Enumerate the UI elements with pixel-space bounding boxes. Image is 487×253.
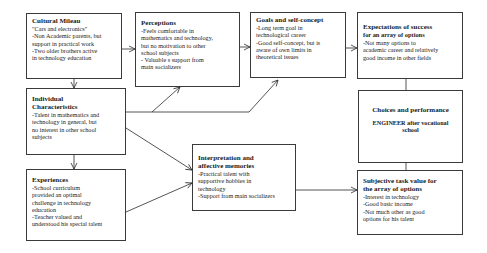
- box-text: "Cars and electronics": [32, 25, 116, 32]
- box-text: -Teacher valued and: [32, 213, 120, 220]
- box-subjective-task-value: Subjective task value for the array of o…: [357, 170, 463, 235]
- box-interpretation-affective-memories: Interpretation and affective memories -P…: [192, 144, 296, 211]
- arrow-experiences-to-interpretation: [126, 183, 192, 212]
- box-expectations-of-success: Expectations of success for an array of …: [357, 12, 463, 79]
- box-text: but no motivation to other: [141, 42, 234, 49]
- box-choices-and-performance: Choices and performance ENGINEER after v…: [358, 90, 463, 163]
- box-individual-characteristics: Individual Characteristics -Talent in ma…: [26, 88, 126, 155]
- box-text: ENGINEER after vocational: [364, 119, 457, 126]
- box-text: challenge in technology: [32, 199, 120, 206]
- box-title: Perceptions: [141, 19, 234, 27]
- box-text: good income in other fields: [363, 54, 457, 61]
- box-text: no interest in other school: [32, 126, 120, 133]
- box-title: Goals and self-concept: [256, 16, 340, 24]
- box-title: Choices and performance: [364, 106, 457, 114]
- box-title: Expectations of success: [363, 23, 457, 31]
- box-text: -Not many options to: [363, 39, 457, 46]
- box-text: subjects: [32, 133, 120, 140]
- box-text: theoretical issues: [256, 53, 340, 60]
- box-text: -Interest in technology: [363, 193, 457, 200]
- box-text: school: [364, 126, 457, 133]
- box-text: - Valuable s support from: [141, 56, 234, 63]
- box-text: support in practical work: [32, 40, 116, 47]
- box-text: options for his talent: [363, 215, 457, 222]
- box-goals-self-concept: Goals and self-concept -Long term goal i…: [250, 12, 346, 78]
- box-text: -Talent in mathematics and: [32, 111, 120, 118]
- box-experiences: Experiences -School curriculum provided …: [26, 169, 126, 241]
- box-text: -Feels comfortable in: [141, 27, 234, 34]
- box-title-line2: Characteristics: [32, 103, 120, 111]
- box-text: -Good self-concept, but is: [256, 39, 340, 46]
- box-text: -Support from main socializers: [198, 192, 290, 199]
- box-text: -Good basic income: [363, 200, 457, 207]
- box-text: supportive hobbies in: [198, 177, 290, 184]
- box-text: mathematics and technology,: [141, 34, 234, 41]
- box-subtitle: for an array of options: [363, 31, 457, 39]
- box-text: aware of own limits in: [256, 46, 340, 53]
- arrow-individual-to-perceptions: [152, 87, 180, 112]
- box-title-line2: the array of options: [363, 185, 457, 193]
- box-text: main socializers: [141, 63, 234, 70]
- box-text: -Long term goal in: [256, 24, 340, 31]
- box-text: -Non Academic parents, but: [32, 32, 116, 39]
- box-text: education: [32, 206, 120, 213]
- box-text: provided an optimal: [32, 191, 120, 198]
- box-text: understood his special talent: [32, 220, 120, 227]
- box-text: school subjects: [141, 49, 234, 56]
- box-text: -School curriculum: [32, 184, 120, 191]
- box-text: technology in general, but: [32, 118, 120, 125]
- box-text: in technology education: [32, 54, 116, 61]
- box-text: -Two older brothers active: [32, 47, 116, 54]
- box-text: academic career and relatively: [363, 46, 457, 53]
- arrow-individual-to-interpretation: [126, 128, 192, 170]
- box-title-line2: affective memories: [198, 162, 290, 170]
- box-perceptions: Perceptions -Feels comfortable in mathem…: [135, 12, 240, 87]
- box-title: Interpretation and: [198, 154, 290, 162]
- box-title: Experiences: [32, 176, 120, 184]
- box-text: -Practical talent with: [198, 170, 290, 177]
- box-title: Individual: [32, 95, 120, 103]
- box-text: technological career: [256, 31, 340, 38]
- box-text: -Not much other as good: [363, 208, 457, 215]
- box-title: Subjective task value for: [363, 177, 457, 185]
- box-title: Cultural Mileau: [32, 17, 116, 25]
- box-text: technology: [198, 185, 290, 192]
- box-cultural-milieu: Cultural Mileau "Cars and electronics" -…: [26, 13, 122, 79]
